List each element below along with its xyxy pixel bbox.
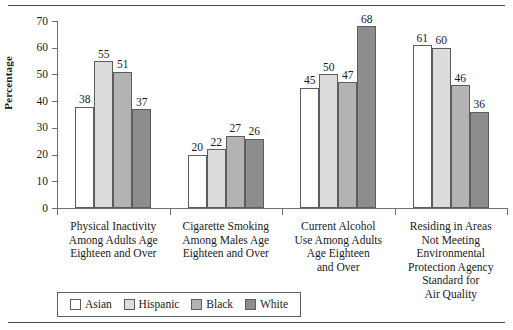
bar: 60 [432,48,451,208]
y-axis-tick-label: 10 [37,176,49,188]
y-axis-title: Percentage [2,56,20,110]
category-caption-line: Not Meeting [389,234,513,248]
category-caption: Current AlcoholUse Among AdultsAge Eight… [276,220,401,274]
legend-label: Hispanic [139,299,180,311]
category-caption-line: Physical Inactivity [51,220,176,234]
bar: 27 [226,136,245,208]
group-separator-tick [395,208,396,215]
legend-label: Asian [85,299,112,311]
y-axis-tick: 10 [52,181,57,182]
category-caption-line: Use Among Adults [276,234,401,248]
y-axis-tick: 20 [52,155,57,156]
bar-value-label: 45 [304,75,316,87]
category-caption-line: Air Quality [389,288,513,302]
legend-swatch-icon [245,299,256,310]
y-axis-tick-label: 60 [37,42,49,54]
legend-item-white[interactable]: White [245,299,288,311]
legend-swatch-icon [70,299,81,310]
group-separator-tick [507,208,508,215]
y-axis-tick-label: 50 [37,69,49,81]
legend-item-hispanic[interactable]: Hispanic [124,299,180,311]
bar-value-label: 55 [98,49,110,61]
category-caption-line: Standard for [389,274,513,288]
category-caption-line: Eighteen and Over [51,247,176,261]
group-separator-tick [170,208,171,215]
bar-value-label: 50 [323,62,335,74]
legend-item-black[interactable]: Black [191,299,233,311]
category-caption: Residing in AreasNot MeetingEnvironmenta… [389,220,513,301]
category-caption-line: Among Males Age [164,234,289,248]
category-caption: Cigarette SmokingAmong Males AgeEighteen… [164,220,289,261]
bar-value-label: 22 [211,137,223,149]
bar-value-label: 46 [455,73,467,85]
y-axis-tick-label: 0 [42,203,48,215]
bar: 38 [75,107,94,209]
bar: 20 [188,155,207,208]
category-caption-line: and Over [276,261,401,275]
plot-area: 010203040506070 385551372022272645504768… [57,21,507,208]
bar: 46 [451,85,470,208]
bar: 26 [245,139,264,208]
bar-value-label: 26 [249,126,261,138]
y-axis-tick-label: 20 [37,149,49,161]
bar: 61 [413,45,432,208]
y-axis-tick: 50 [52,74,57,75]
category-caption-line: Current Alcohol [276,220,401,234]
bar-value-label: 20 [192,142,204,154]
y-axis-tick: 40 [52,101,57,102]
y-axis-line [57,21,58,209]
bar: 51 [113,72,132,208]
bottom-rule [8,322,505,323]
legend-label: White [260,299,288,311]
legend-item-asian[interactable]: Asian [70,299,112,311]
bar-value-label: 27 [230,123,242,135]
category-caption: Physical InactivityAmong Adults AgeEight… [51,220,176,261]
bar: 47 [338,82,357,208]
category-caption-line: Age Eighteen [276,247,401,261]
category-caption-line: Protection Agency [389,261,513,275]
bar-value-label: 60 [436,35,448,47]
category-caption-line: Cigarette Smoking [164,220,289,234]
bar: 55 [94,61,113,208]
bar: 68 [357,26,376,208]
bar: 22 [207,149,226,208]
category-caption-line: Eighteen and Over [164,247,289,261]
y-axis-tick: 60 [52,48,57,49]
chart-figure: Percentage 010203040506070 3855513720222… [0,0,513,330]
y-axis-tick: 70 [52,21,57,22]
y-axis-tick: 30 [52,128,57,129]
bar-value-label: 51 [117,59,129,71]
bar: 37 [132,109,151,208]
y-axis-tick-label: 40 [37,96,49,108]
bar: 45 [300,88,319,208]
legend-swatch-icon [191,299,202,310]
chart-legend: AsianHispanicBlackWhite [57,292,301,317]
category-caption-line: Among Adults Age [51,234,176,248]
y-axis-tick-label: 70 [37,16,49,28]
bar-value-label: 68 [361,14,373,26]
bar-value-label: 47 [342,70,354,82]
bar-value-label: 36 [474,99,486,111]
group-separator-tick [282,208,283,215]
bar-value-label: 61 [417,33,429,45]
top-rule [8,5,505,6]
category-caption-line: Residing in Areas [389,220,513,234]
bar: 36 [470,112,489,208]
y-axis-tick-label: 30 [37,123,49,135]
bar: 50 [319,74,338,208]
category-caption-line: Environmental [389,247,513,261]
bar-value-label: 37 [136,97,148,109]
legend-swatch-icon [124,299,135,310]
legend-label: Black [206,299,233,311]
bar-value-label: 38 [79,94,91,106]
group-separator-tick [57,208,58,215]
